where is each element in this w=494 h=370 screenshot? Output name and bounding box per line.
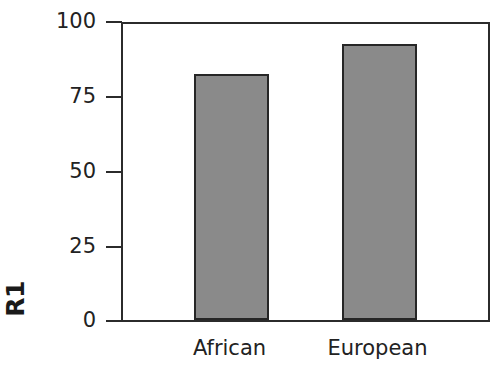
y-axis-title: R1	[3, 269, 29, 329]
bar-african	[194, 74, 269, 320]
y-tick-label-100: 100	[36, 11, 96, 32]
y-tick-mark-0	[106, 320, 122, 322]
y-tick-mark-50	[106, 171, 122, 173]
x-tick-label-european: European	[298, 338, 458, 359]
plot-area	[121, 22, 490, 322]
y-tick-label-25: 25	[36, 236, 96, 257]
y-tick-label-75: 75	[36, 86, 96, 107]
y-tick-mark-25	[106, 246, 122, 248]
y-tick-label-50: 50	[36, 161, 96, 182]
bar-chart-figure: R1 100 75 50 25 0 African European	[0, 0, 494, 370]
x-tick-label-african: African	[150, 338, 310, 359]
y-tick-label-0: 0	[36, 310, 96, 331]
y-tick-mark-75	[106, 96, 122, 98]
y-tick-mark-100	[106, 21, 122, 23]
bar-european	[342, 44, 417, 320]
